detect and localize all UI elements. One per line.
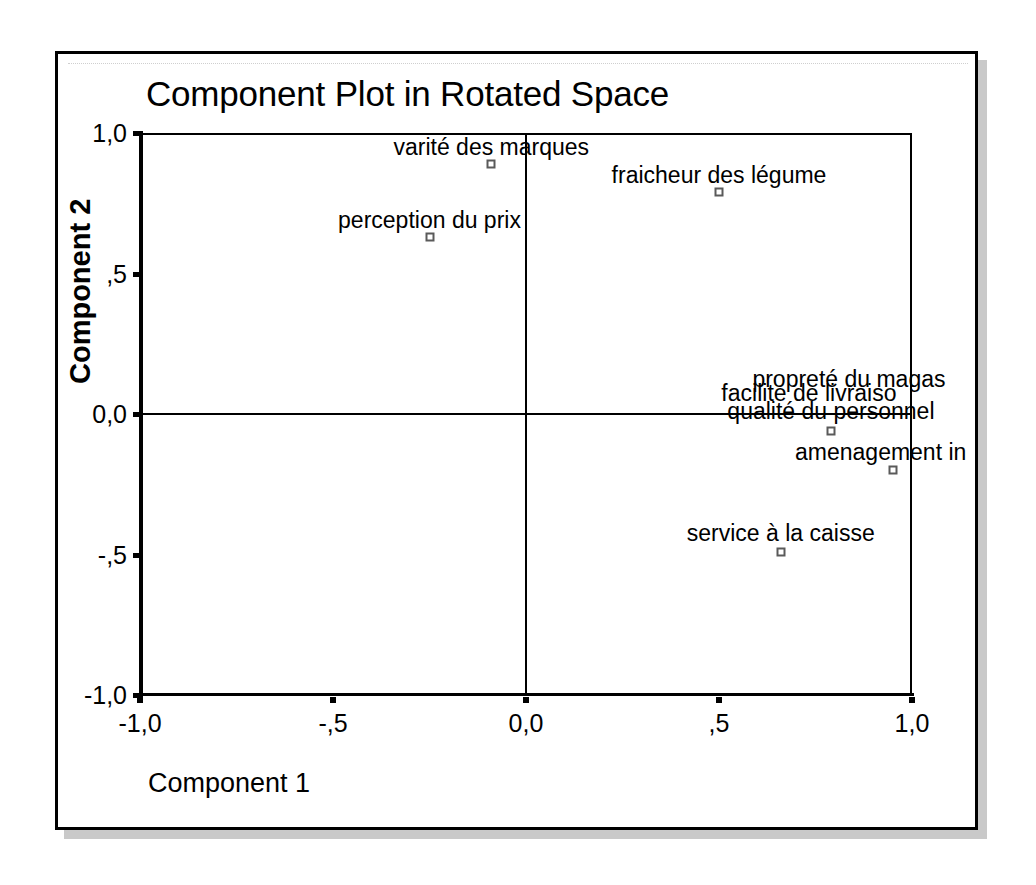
- y-tick-mark: [133, 131, 142, 136]
- x-tick-mark: [716, 697, 722, 703]
- data-point-marker[interactable]: [888, 466, 897, 475]
- data-point-label: amenagement in: [795, 441, 966, 464]
- data-point-label: fraicheur des légume: [612, 164, 827, 187]
- page-title: Component Plot in Rotated Space: [146, 72, 669, 116]
- y-tick-label: 0,0: [92, 402, 127, 427]
- y-tick-label: -1,0: [84, 683, 127, 708]
- data-point-label: service à la caisse: [687, 522, 875, 545]
- x-tick-label: 1,0: [895, 711, 930, 736]
- x-tick-mark: [330, 697, 336, 703]
- y-tick-mark: [133, 553, 142, 558]
- y-tick-label: -,5: [98, 542, 127, 567]
- data-point-label: perception du prix: [338, 209, 521, 232]
- x-tick-mark: [909, 697, 915, 703]
- data-point-marker[interactable]: [425, 232, 434, 241]
- chart-figure-frame: Component Plot in Rotated Space 1,0,50,0…: [55, 51, 978, 830]
- y-axis-title: Component 2: [66, 199, 95, 384]
- data-point-marker[interactable]: [487, 159, 496, 168]
- x-tick-label: -1,0: [118, 711, 161, 736]
- data-point-label: qualité du personnel: [727, 400, 934, 423]
- y-tick-mark: [133, 272, 142, 277]
- plot-area: 1,0,50,0-,5-1,0 -1,0-,50,0,51,0 varité d…: [140, 133, 912, 695]
- y-tick-label: ,5: [106, 261, 127, 286]
- y-tick-mark: [133, 412, 142, 417]
- x-tick-label: ,5: [709, 711, 730, 736]
- data-point-marker[interactable]: [776, 547, 785, 556]
- x-tick-label: 0,0: [509, 711, 544, 736]
- x-tick-mark: [523, 697, 529, 703]
- x-axis-title: Component 1: [148, 770, 310, 797]
- x-tick-label: -,5: [318, 711, 347, 736]
- data-point-marker[interactable]: [826, 426, 835, 435]
- data-point-marker[interactable]: [715, 188, 724, 197]
- data-point-label: varité des marques: [393, 136, 589, 159]
- x-tick-mark: [137, 697, 143, 703]
- y-tick-label: 1,0: [92, 121, 127, 146]
- inner-rule-divider: [68, 63, 968, 65]
